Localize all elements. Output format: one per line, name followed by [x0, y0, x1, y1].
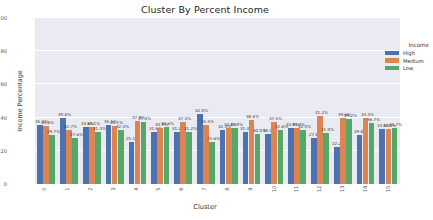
- x-tick-label: 8: [224, 187, 230, 190]
- legend-label: High: [403, 50, 433, 56]
- bar: [174, 132, 180, 184]
- bar: [135, 121, 141, 184]
- bar-value-label: 27.6%: [70, 132, 83, 137]
- bar-value-label: 37.3%: [178, 116, 191, 121]
- gridline: [35, 17, 400, 18]
- bar: [203, 125, 209, 184]
- x-tick-label: 14: [362, 186, 368, 193]
- x-axis-label: Cluster: [0, 203, 410, 211]
- bar: [294, 128, 300, 184]
- legend-swatch: [385, 66, 399, 71]
- bar: [300, 130, 306, 184]
- bar: [311, 138, 317, 184]
- bar-value-label: 32.7%: [64, 124, 77, 129]
- y-tick-label: 100: [0, 15, 7, 21]
- bar: [72, 138, 78, 184]
- bar-value-label: 39.2%: [344, 113, 357, 118]
- bar: [157, 128, 163, 184]
- bar-value-label: 42.0%: [195, 108, 208, 113]
- bar-value-label: 39.8%: [58, 112, 71, 117]
- y-tick-label: 60: [0, 81, 7, 87]
- legend: Income HighMediumLow: [353, 42, 433, 73]
- bar: [288, 128, 294, 184]
- bar: [49, 135, 55, 184]
- legend-label: Medium: [403, 58, 433, 64]
- bar: [118, 130, 124, 184]
- legend-entry[interactable]: High: [353, 50, 433, 56]
- legend-entries: HighMediumLow: [353, 50, 433, 71]
- bar: [197, 114, 203, 184]
- legend-swatch: [385, 51, 399, 56]
- bar-value-label: 31.2%: [184, 126, 197, 131]
- bar: [164, 127, 170, 184]
- bar: [357, 135, 363, 184]
- bar: [363, 118, 369, 184]
- y-tick-label: 40: [0, 115, 7, 121]
- legend-title: Income: [353, 42, 433, 48]
- x-tick-label: 7: [201, 187, 207, 190]
- legend-swatch: [385, 58, 399, 63]
- bar: [43, 126, 49, 184]
- bar: [112, 126, 118, 184]
- x-tick-label: 1: [64, 187, 70, 190]
- x-tick-label: 0: [41, 187, 47, 190]
- bar: [95, 132, 101, 184]
- legend-label: Low: [403, 65, 433, 71]
- bar: [255, 134, 261, 184]
- x-tick-label: 3: [110, 187, 116, 190]
- y-tick-label: 0: [4, 181, 7, 187]
- bar: [37, 125, 43, 184]
- legend-entry[interactable]: Medium: [353, 58, 433, 64]
- bar: [379, 129, 385, 184]
- y-tick-label: 80: [0, 48, 7, 54]
- bar-value-label: 31.3%: [93, 126, 106, 131]
- bar: [226, 128, 232, 184]
- gridline: [35, 50, 400, 51]
- y-axis-label: Income Percentage: [16, 31, 24, 171]
- x-tick-label: 2: [87, 187, 93, 190]
- bar-value-label: 34.8%: [41, 120, 54, 125]
- bar: [220, 130, 226, 184]
- bar: [278, 130, 284, 184]
- bar-value-label: 25.6%: [207, 135, 220, 140]
- y-axis-label-container: Income Percentage: [6, 18, 20, 184]
- bar: [151, 132, 157, 184]
- bar: [141, 122, 147, 184]
- gridline: [35, 83, 400, 84]
- bar: [89, 127, 95, 184]
- legend-entry[interactable]: Low: [353, 65, 433, 71]
- bar: [271, 122, 277, 184]
- x-tick-label: 12: [316, 186, 322, 193]
- bar: [66, 130, 72, 184]
- bar: [265, 134, 271, 184]
- bar: [369, 123, 375, 184]
- x-tick-label: 6: [178, 187, 184, 190]
- x-tick-label: 11: [294, 186, 300, 193]
- bar-value-label: 32.4%: [298, 124, 311, 129]
- x-tick-label: 5: [155, 187, 161, 190]
- bar: [83, 127, 89, 184]
- x-tick-label: 15: [385, 186, 391, 193]
- bar-value-label: 37.5%: [269, 116, 282, 121]
- bar-value-label: 34.6%: [161, 121, 174, 126]
- bar-value-label: 33.7%: [389, 122, 402, 127]
- bar-value-label: 31.0%: [321, 126, 334, 131]
- plot-area: 35.4%34.8%29.7%39.8%32.7%27.6%34.6%34.1%…: [35, 18, 400, 184]
- bar: [209, 142, 215, 184]
- bar: [129, 142, 135, 184]
- bar-value-label: 35.5%: [201, 119, 214, 124]
- bar: [243, 132, 249, 184]
- bar: [386, 129, 392, 184]
- bar: [346, 119, 352, 184]
- bar-value-label: 36.7%: [367, 117, 380, 122]
- x-tick-label: 13: [339, 186, 345, 193]
- bar: [340, 118, 346, 184]
- x-tick-label: 10: [271, 186, 277, 193]
- bar: [106, 125, 112, 184]
- bar: [232, 128, 238, 184]
- x-tick-label: 4: [132, 187, 138, 190]
- bar: [317, 116, 323, 184]
- bar: [186, 132, 192, 184]
- x-tick-label: 9: [246, 187, 252, 190]
